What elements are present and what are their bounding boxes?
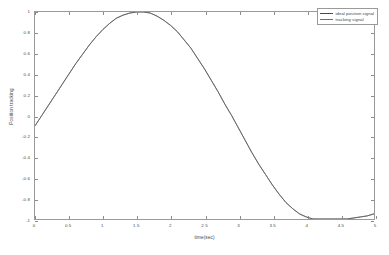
y-tick-mark — [371, 137, 374, 138]
x-tick-mark — [69, 216, 70, 219]
y-tick-mark — [371, 158, 374, 159]
x-tick-mark — [206, 12, 207, 15]
x-tick-mark — [35, 216, 36, 219]
y-tick-mark — [35, 117, 38, 118]
y-tick-label: 0.8 — [10, 29, 30, 34]
x-tick-label: 3.5 — [269, 223, 275, 228]
x-tick-label: 4.5 — [338, 223, 344, 228]
legend-label: tracking signal — [336, 17, 364, 23]
y-tick-mark — [35, 33, 38, 34]
y-tick-label: -0.6 — [10, 176, 30, 181]
y-tick-label: 1 — [10, 9, 30, 14]
x-tick-mark — [103, 12, 104, 15]
curve-svg — [35, 12, 374, 219]
x-tick-mark — [137, 12, 138, 15]
x-tick-label: 2 — [169, 223, 172, 228]
y-tick-mark — [371, 221, 374, 222]
y-tick-mark — [35, 75, 38, 76]
x-tick-mark — [240, 12, 241, 15]
y-axis-label: Position tracking — [9, 72, 14, 142]
x-tick-label: 2.5 — [201, 223, 207, 228]
series-line — [35, 12, 374, 219]
legend-box: ideal position signaltracking signal — [317, 8, 378, 25]
x-tick-label: 4 — [306, 223, 309, 228]
x-axis-label: time(sec) — [34, 235, 375, 240]
x-tick-label: 3 — [237, 223, 240, 228]
x-tick-mark — [103, 216, 104, 219]
x-tick-label: 1.5 — [133, 223, 139, 228]
x-tick-mark — [274, 216, 275, 219]
y-tick-mark — [35, 221, 38, 222]
x-tick-mark — [137, 216, 138, 219]
x-tick-mark — [342, 216, 343, 219]
x-tick-label: 0 — [33, 223, 36, 228]
y-tick-mark — [35, 158, 38, 159]
y-tick-mark — [371, 117, 374, 118]
y-tick-mark — [371, 179, 374, 180]
y-tick-mark — [371, 96, 374, 97]
y-tick-mark — [371, 200, 374, 201]
y-tick-mark — [371, 75, 374, 76]
x-tick-mark — [171, 216, 172, 219]
x-tick-label: 1 — [101, 223, 104, 228]
y-tick-mark — [371, 33, 374, 34]
x-tick-label: 0.5 — [65, 223, 71, 228]
x-tick-mark — [69, 12, 70, 15]
y-tick-mark — [35, 12, 38, 13]
y-tick-label: -0.8 — [10, 197, 30, 202]
x-tick-mark — [376, 216, 377, 219]
x-tick-mark — [171, 12, 172, 15]
y-tick-label: -0.4 — [10, 155, 30, 160]
y-tick-mark — [35, 200, 38, 201]
x-tick-mark — [240, 216, 241, 219]
x-tick-label: 5 — [374, 223, 377, 228]
x-tick-mark — [308, 216, 309, 219]
x-tick-mark — [308, 12, 309, 15]
x-tick-mark — [274, 12, 275, 15]
y-tick-mark — [35, 179, 38, 180]
y-tick-mark — [35, 54, 38, 55]
x-tick-mark — [206, 216, 207, 219]
y-tick-label: 0.6 — [10, 50, 30, 55]
y-tick-mark — [35, 96, 38, 97]
y-tick-label: -1 — [10, 218, 30, 223]
y-tick-mark — [371, 54, 374, 55]
plot-area — [34, 11, 375, 220]
legend-line-swatch — [320, 19, 333, 20]
series-line — [35, 12, 374, 219]
legend-line-swatch — [320, 13, 333, 14]
y-tick-mark — [35, 137, 38, 138]
legend-entry: tracking signal — [320, 17, 374, 23]
figure-canvas: 00.511.522.533.544.55 10.80.60.40.20-0.2… — [0, 0, 389, 255]
